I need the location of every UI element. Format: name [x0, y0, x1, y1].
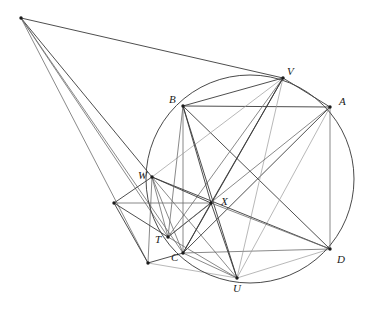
- segment-apex-to-T: [21, 18, 168, 237]
- segment-apex-to-W: [21, 18, 152, 177]
- segment-chord-BV: [183, 78, 283, 106]
- segment-chord-UA: [237, 107, 330, 278]
- point-p: [19, 16, 22, 19]
- point-u: [235, 276, 238, 279]
- point-e: [112, 201, 115, 204]
- point-c: [181, 251, 184, 254]
- label-v: V: [287, 66, 294, 77]
- point-d: [328, 247, 331, 250]
- segment-chord-VT: [168, 78, 283, 237]
- segment-chord-AV: [283, 78, 330, 107]
- geometry-figure: VBAWXTCDU: [0, 0, 373, 310]
- segment-chord-UD: [237, 249, 330, 278]
- label-b: B: [169, 94, 176, 105]
- segment-seg-BT: [168, 106, 183, 237]
- point-v: [281, 76, 284, 79]
- geometry-canvas: [0, 0, 373, 310]
- point-f: [146, 261, 149, 264]
- label-u: U: [233, 283, 241, 294]
- points-layer: [19, 16, 331, 279]
- label-x: X: [221, 196, 228, 207]
- point-a: [328, 105, 331, 108]
- segment-chord-UX: [211, 203, 237, 278]
- segments-layer: [21, 18, 330, 278]
- point-w: [150, 175, 153, 178]
- label-t: T: [155, 234, 161, 245]
- segment-seg-XD: [211, 203, 330, 249]
- segment-chord-VU: [237, 78, 283, 278]
- segment-seg-WD: [152, 177, 330, 249]
- label-w: W: [138, 170, 147, 181]
- point-x: [209, 201, 212, 204]
- point-b: [181, 104, 184, 107]
- segment-side-AB: [183, 106, 330, 107]
- segment-seg-BX: [183, 106, 211, 203]
- segment-diag-AC: [183, 107, 330, 253]
- segment-apex-to-C: [21, 18, 183, 253]
- segment-apex-to-F: [21, 18, 148, 263]
- segment-seg-EF: [114, 203, 148, 263]
- segment-chord-VX: [211, 78, 283, 203]
- segment-chord-UC: [183, 253, 237, 278]
- label-a: A: [339, 96, 346, 107]
- label-c: C: [171, 252, 178, 263]
- segment-side-CD: [183, 249, 330, 253]
- segment-apex-to-V: [21, 18, 283, 78]
- segment-seg-WF: [148, 177, 152, 263]
- label-d: D: [337, 254, 345, 265]
- point-t: [166, 235, 169, 238]
